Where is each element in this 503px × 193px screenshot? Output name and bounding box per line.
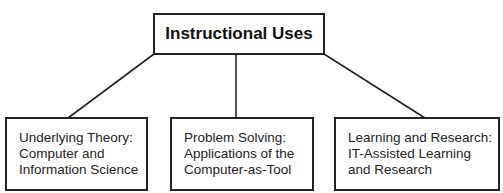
connector-root-to-theory <box>68 54 154 118</box>
child-node-underlying-theory: Underlying Theory: Computer and Informat… <box>5 117 148 191</box>
child-node-line: Information Science <box>19 162 138 178</box>
child-node-line: Problem Solving: <box>184 130 294 146</box>
child-node-text: Problem Solving: Applications of the Com… <box>184 130 294 178</box>
connector-root-to-learning-research <box>324 54 425 118</box>
child-node-text: Learning and Research: IT-Assisted Learn… <box>348 130 492 178</box>
root-node-label: Instructional Uses <box>165 24 312 44</box>
child-node-line: IT-Assisted Learning <box>348 146 492 162</box>
child-node-line: Learning and Research: <box>348 130 492 146</box>
child-node-line: and Research <box>348 162 492 178</box>
child-node-text: Underlying Theory: Computer and Informat… <box>19 130 138 178</box>
child-node-line: Underlying Theory: <box>19 130 138 146</box>
root-node: Instructional Uses <box>153 13 325 55</box>
child-node-line: Applications of the <box>184 146 294 162</box>
child-node-line: Computer-as-Tool <box>184 162 294 178</box>
child-node-line: Computer and <box>19 146 138 162</box>
child-node-learning-research: Learning and Research: IT-Assisted Learn… <box>334 117 500 191</box>
child-node-problem-solving: Problem Solving: Applications of the Com… <box>170 117 314 191</box>
